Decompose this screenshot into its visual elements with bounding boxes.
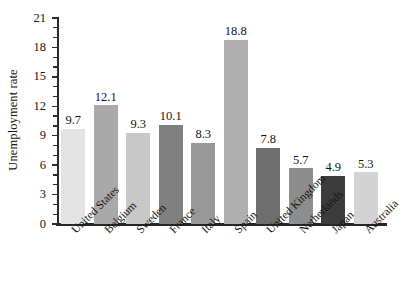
bar-value-label: 18.8 <box>216 25 256 38</box>
y-tick-label: 18 <box>6 41 46 54</box>
bar-value-label: 8.3 <box>183 128 223 141</box>
bar-group[interactable]: 8.3 <box>191 18 215 224</box>
bar-value-label: 9.7 <box>53 114 93 127</box>
bar-value-label: 5.3 <box>346 158 386 171</box>
y-tick-label: 12 <box>6 100 46 113</box>
bar-chart: Unemployment rate 036912151821 9.712.19.… <box>0 0 405 302</box>
bar[interactable] <box>224 40 248 224</box>
x-category-label: Australia <box>362 227 370 235</box>
bar-group[interactable]: 9.3 <box>126 18 150 224</box>
x-category-label: Italy <box>199 227 207 235</box>
x-category-label: Netherlands <box>297 227 305 235</box>
y-tick-label: 3 <box>6 188 46 201</box>
x-category-label: Sweden <box>134 227 142 235</box>
bar-group[interactable]: 18.8 <box>224 18 248 224</box>
bar-group[interactable]: 10.1 <box>159 18 183 224</box>
y-tick-label: 21 <box>6 12 46 25</box>
bar-group[interactable]: 5.3 <box>354 18 378 224</box>
x-axis-category-labels: United StatesBelgiumSwedenFranceItalySpa… <box>57 227 405 302</box>
x-category-label: Belgium <box>102 227 110 235</box>
y-tick-label: 0 <box>6 218 46 231</box>
x-category-label: Japan <box>329 227 337 235</box>
bar-group[interactable]: 7.8 <box>256 18 280 224</box>
y-tick-label: 9 <box>6 129 46 142</box>
bar[interactable] <box>61 129 85 224</box>
y-tick-label: 6 <box>6 159 46 172</box>
y-tick-label: 15 <box>6 70 46 83</box>
bar-value-label: 10.1 <box>151 110 191 123</box>
x-category-label: France <box>167 227 175 235</box>
bar-value-label: 12.1 <box>86 91 126 104</box>
bar-group[interactable]: 9.7 <box>61 18 85 224</box>
x-category-label: United Kingdom <box>264 227 272 235</box>
x-category-label: Spain <box>232 227 240 235</box>
y-axis-title: Unemployment rate <box>6 4 24 236</box>
bar-value-label: 7.8 <box>248 133 288 146</box>
x-category-label: United States <box>69 227 77 235</box>
